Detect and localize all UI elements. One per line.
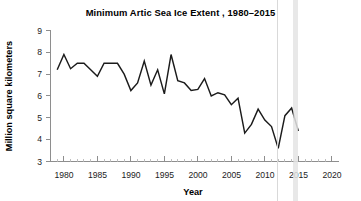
x-tick-label: 2010 — [255, 170, 274, 180]
y-tick-label: 9 — [37, 26, 42, 36]
scan-artifact-band — [294, 0, 298, 201]
y-tick-label: 3 — [37, 157, 42, 167]
x-tick-label: 1990 — [121, 170, 140, 180]
chart-title: Minimum Artic Sea Ice Extent , 1980–2015 — [86, 7, 276, 18]
x-tick-label: 2015 — [289, 170, 308, 180]
x-axis-tick-labels: 1980 1985 1990 1995 2000 2005 2010 2015 … — [54, 170, 341, 180]
x-tick-label: 1985 — [88, 170, 107, 180]
x-tick-label: 1995 — [155, 170, 174, 180]
y-axis-label: Million square kilometers — [4, 41, 14, 151]
y-tick-label: 5 — [37, 113, 42, 123]
chart-figure: Minimum Artic Sea Ice Extent , 1980–2015… — [0, 0, 361, 201]
line-chart: Minimum Artic Sea Ice Extent , 1980–2015… — [0, 0, 361, 201]
y-tick-label: 7 — [37, 69, 42, 79]
y-tick-label: 6 — [37, 91, 42, 101]
y-tick-label: 4 — [37, 134, 42, 144]
x-tick-label: 2000 — [188, 170, 207, 180]
x-axis-label: Year — [183, 187, 203, 197]
x-tick-label: 1980 — [54, 170, 73, 180]
x-tick-label: 2020 — [322, 170, 341, 180]
y-tick-label: 8 — [37, 47, 42, 57]
x-tick-label: 2005 — [222, 170, 241, 180]
